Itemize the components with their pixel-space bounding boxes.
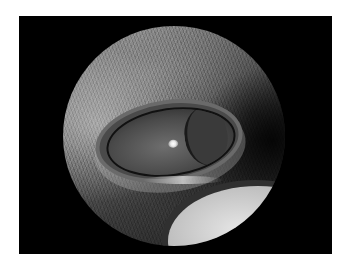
circular-scope-view bbox=[63, 26, 285, 246]
lower-lid-highlight bbox=[143, 176, 223, 184]
light-reflection bbox=[168, 139, 179, 148]
photo-frame bbox=[19, 16, 332, 254]
